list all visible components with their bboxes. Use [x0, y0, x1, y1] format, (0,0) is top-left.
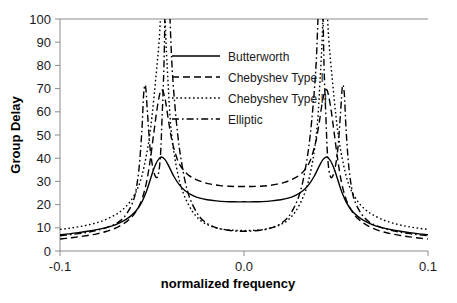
y-tick-label: 100 — [29, 12, 51, 27]
chart-background — [0, 0, 457, 303]
y-tick-label: 90 — [37, 35, 51, 50]
y-tick-label: 10 — [37, 220, 51, 235]
legend-label-elliptic: Elliptic — [228, 113, 263, 127]
y-axis-title: Group Delay — [8, 96, 23, 174]
legend-label-chebyshev-type-ii: Chebyshev Type II — [228, 92, 327, 106]
legend-label-butterworth: Butterworth — [228, 50, 289, 64]
y-tick-label: 80 — [37, 58, 51, 73]
y-tick-label: 0 — [44, 244, 51, 259]
x-tick-label: -0.1 — [49, 259, 71, 274]
x-axis-title: normalized frequency — [161, 276, 296, 291]
y-tick-label: 20 — [37, 197, 51, 212]
legend-label-chebyshev-type-i: Chebyshev Type I — [228, 71, 324, 85]
chart-canvas: 0102030405060708090100 -0.10.00.1 normal… — [0, 0, 457, 303]
y-tick-label: 60 — [37, 104, 51, 119]
group-delay-chart: 0102030405060708090100 -0.10.00.1 normal… — [0, 0, 457, 303]
y-tick-label: 40 — [37, 151, 51, 166]
y-tick-label: 70 — [37, 81, 51, 96]
y-tick-label: 30 — [37, 174, 51, 189]
x-tick-label: 0.0 — [235, 259, 253, 274]
y-tick-label: 50 — [37, 128, 51, 143]
x-tick-label: 0.1 — [419, 259, 437, 274]
